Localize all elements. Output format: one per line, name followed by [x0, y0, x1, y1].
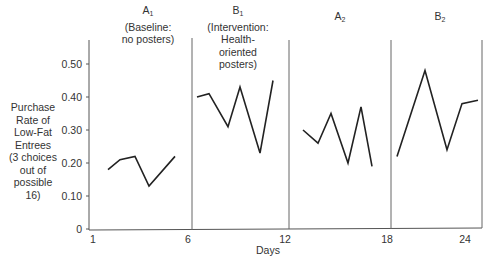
series-line	[397, 71, 478, 157]
y-label-line: (3 choices	[2, 151, 64, 164]
data-series	[108, 71, 478, 187]
x-tick-label: 24	[459, 233, 471, 245]
series-line	[108, 156, 175, 186]
y-label-line: Entrees	[2, 139, 64, 152]
y-axis-label: PurchaseRate ofLow-FatEntrees(3 choiceso…	[2, 101, 64, 201]
phase-desc-line: (Baseline:	[108, 21, 188, 34]
phase-desc-line: oriented	[190, 46, 286, 59]
phase-desc-line: posters)	[190, 58, 286, 71]
y-tick-label: 0	[76, 223, 82, 235]
y-label-line: 16)	[2, 189, 64, 202]
phase-label-b1: B1(Intervention:Health-orientedposters)	[190, 4, 286, 71]
y-label-line: Low-Fat	[2, 126, 64, 139]
phase-desc-line: Health-	[190, 33, 286, 46]
y-tick-label: 0.40	[62, 91, 83, 103]
x-axis	[89, 228, 482, 230]
y-label-line: possible	[2, 176, 64, 189]
y-label-line: Purchase	[2, 101, 64, 114]
series-line	[303, 107, 372, 166]
phase-desc-line: (Intervention:	[190, 21, 286, 34]
phase-label-b2: B2	[410, 10, 470, 27]
y-tick-label: 0.50	[62, 58, 83, 70]
y-tick-label: 0.30	[62, 124, 83, 136]
phase-title: A1	[108, 4, 188, 21]
y-tick-label: 0.20	[62, 157, 83, 169]
phase-desc-line: no posters)	[108, 33, 188, 46]
phase-title: A2	[310, 10, 370, 27]
x-tick-label: 1	[90, 233, 96, 245]
phase-title: B2	[410, 10, 470, 27]
x-axis-title: Days	[256, 244, 280, 256]
x-ticks: 16121824	[90, 233, 471, 245]
y-label-line: Rate of	[2, 114, 64, 127]
y-ticks: 00.100.200.300.400.50	[62, 58, 89, 235]
phase-title: B1	[190, 4, 286, 21]
y-label-line: out of	[2, 164, 64, 177]
y-tick-label: 0.10	[62, 190, 83, 202]
phase-label-a2: A2	[310, 10, 370, 27]
x-tick-label: 6	[185, 233, 191, 245]
x-tick-label: 18	[381, 233, 393, 245]
series-line	[197, 81, 273, 154]
x-tick-label: 12	[279, 233, 291, 245]
phase-label-a1: A1(Baseline:no posters)	[108, 4, 188, 46]
